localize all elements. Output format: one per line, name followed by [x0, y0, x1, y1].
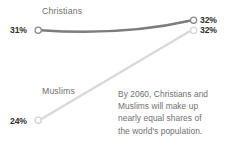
muslims-end-marker — [191, 27, 197, 33]
series-label-muslims: Muslims — [42, 86, 75, 96]
christians-end-marker — [191, 17, 197, 23]
value-label-christians-start: 31% — [10, 25, 27, 35]
annotation-line-3: nearly equal shares of — [118, 112, 230, 124]
series-label-christians: Christians — [42, 6, 82, 16]
value-label-muslims-end: 32% — [200, 25, 217, 35]
chart-annotation-text: By 2060, Christians and Muslims will mak… — [118, 88, 230, 137]
slope-chart: Christians Muslims 31% 32% 24% 32% By 20… — [0, 0, 232, 147]
annotation-line-2: Muslims will make up — [118, 100, 230, 112]
value-label-muslims-start: 24% — [10, 116, 27, 126]
annotation-line-1: By 2060, Christians and — [118, 88, 230, 100]
value-label-christians-end: 32% — [200, 15, 217, 25]
annotation-line-4: the world's population. — [118, 125, 230, 137]
christians-start-marker — [35, 27, 41, 33]
christians-series-line — [41, 21, 192, 32]
muslims-start-marker — [35, 117, 41, 123]
